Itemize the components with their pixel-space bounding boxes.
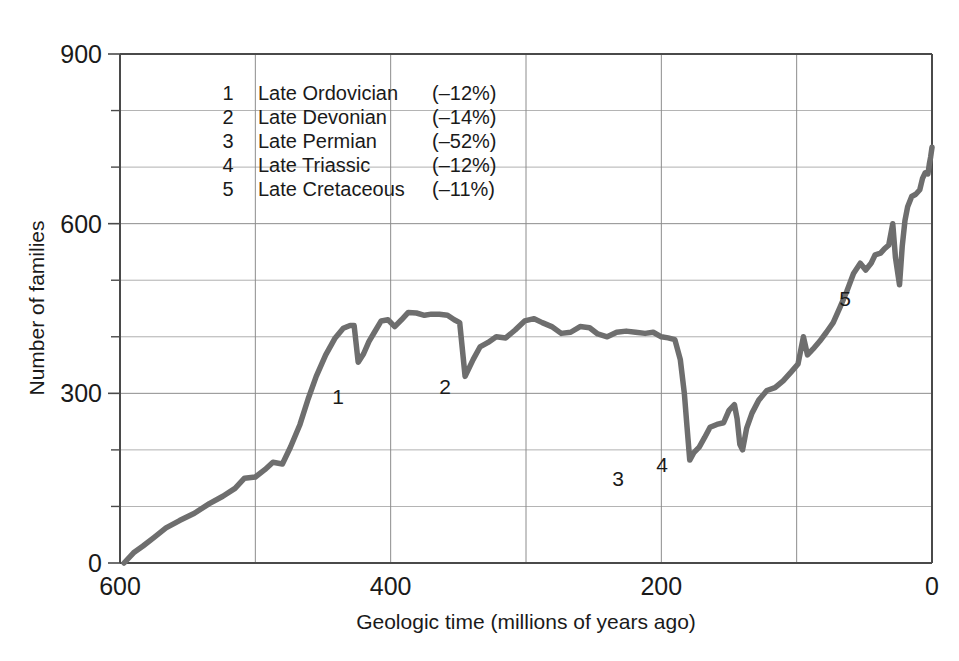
legend-name-1: Late Ordovician xyxy=(258,82,398,104)
legend-number-4: 4 xyxy=(222,154,233,176)
y-tick-label: 0 xyxy=(88,549,102,577)
event-number-label-4: 4 xyxy=(656,453,668,476)
x-tick-label: 600 xyxy=(99,572,141,600)
legend-name-4: Late Triassic xyxy=(258,154,370,176)
legend-name-5: Late Cretaceous xyxy=(258,178,405,200)
x-axis-title: Geologic time (millions of years ago) xyxy=(356,610,696,633)
event-number-label-1: 1 xyxy=(332,385,344,408)
legend-percent-5: (–11%) xyxy=(432,178,495,200)
legend-number-1: 1 xyxy=(222,82,233,104)
data-series-line xyxy=(124,147,932,563)
legend-name-3: Late Permian xyxy=(258,130,377,152)
axis-minor-ticks xyxy=(108,54,120,563)
legend-percent-2: (–14%) xyxy=(432,106,496,128)
line-chart: 6004002000 0300600900 12345 1Late Ordovi… xyxy=(0,0,959,661)
legend-percent-1: (–12%) xyxy=(432,82,496,104)
y-axis-title: Number of families xyxy=(25,220,48,395)
legend-number-5: 5 xyxy=(222,178,233,200)
legend-percent-4: (–12%) xyxy=(432,154,496,176)
y-tick-label: 900 xyxy=(60,40,102,68)
x-tick-label: 200 xyxy=(640,572,682,600)
event-number-label-5: 5 xyxy=(839,287,851,310)
y-axis-tick-labels: 0300600900 xyxy=(60,40,102,577)
x-axis-tick-labels: 6004002000 xyxy=(99,572,939,600)
x-tick-label: 0 xyxy=(925,572,939,600)
legend-percent-3: (–52%) xyxy=(432,130,496,152)
x-tick-label: 400 xyxy=(370,572,412,600)
event-number-label-3: 3 xyxy=(612,467,624,490)
y-tick-label: 300 xyxy=(60,379,102,407)
series-polyline xyxy=(124,147,932,563)
legend-number-3: 3 xyxy=(222,130,233,152)
legend-name-2: Late Devonian xyxy=(258,106,387,128)
y-tick-label: 600 xyxy=(60,210,102,238)
gridlines xyxy=(120,54,932,563)
event-number-label-2: 2 xyxy=(439,375,451,398)
legend: 1Late Ordovician(–12%)2Late Devonian(–14… xyxy=(222,82,496,200)
legend-number-2: 2 xyxy=(222,106,233,128)
chart-figure: 6004002000 0300600900 12345 1Late Ordovi… xyxy=(0,0,959,661)
